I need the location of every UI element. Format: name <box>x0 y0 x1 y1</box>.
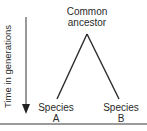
leaf-label-b: Species B <box>99 102 143 124</box>
branch-a <box>57 34 87 99</box>
root-label-line2: ancestor <box>58 17 116 28</box>
bottom-rule <box>0 123 147 125</box>
leaf-a-line1: Species <box>34 102 78 113</box>
leaf-label-a: Species A <box>34 102 78 124</box>
leaf-b-line1: Species <box>99 102 143 113</box>
branch-b <box>87 34 119 99</box>
root-label-line1: Common <box>58 6 116 17</box>
axis-label: Time in generations <box>2 25 13 108</box>
axis-arrow-icon <box>22 104 30 114</box>
root-label: Common ancestor <box>58 6 116 28</box>
